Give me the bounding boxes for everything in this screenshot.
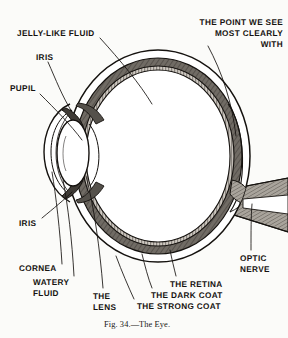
figure-page: JELLY-LIKE FLUID IRIS PUPIL IRIS CORNEA … [0, 0, 288, 338]
label-point-line3: WITH [183, 39, 283, 50]
label-watery-fluid-line2: FLUID [33, 288, 69, 299]
label-the-lens: THE LENS [93, 291, 116, 313]
label-pupil: PUPIL [10, 83, 36, 94]
label-optic-nerve-line2: NERVE [240, 264, 270, 275]
label-iris-bottom: IRIS [19, 218, 36, 229]
label-the-retina: THE RETINA [170, 279, 223, 290]
lens [57, 120, 89, 186]
label-jelly-like-fluid: JELLY-LIKE FLUID [17, 28, 95, 39]
label-the-dark-coat: THE DARK COAT [151, 290, 223, 301]
figure-caption: Fig. 34.—The Eye. [104, 320, 170, 329]
label-cornea: CORNEA [19, 263, 57, 274]
label-the-lens-line2: LENS [93, 302, 116, 313]
leader-strong-coat [116, 256, 134, 299]
jelly-like-fluid-chamber [86, 70, 230, 242]
label-watery-fluid-line1: WATERY [33, 277, 69, 288]
label-point-line1: THE POINT WE SEE [183, 17, 283, 28]
label-the-strong-coat: THE STRONG COAT [137, 301, 221, 312]
label-iris-top: IRIS [36, 52, 53, 63]
label-the-lens-line1: THE [93, 291, 116, 302]
label-optic-nerve: OPTIC NERVE [240, 253, 270, 275]
label-point-line2: MOST CLEARLY [183, 28, 283, 39]
label-optic-nerve-line1: OPTIC [240, 253, 270, 264]
label-point-we-see-most-clearly-with: THE POINT WE SEE MOST CLEARLY WITH [183, 17, 283, 50]
label-watery-fluid: WATERY FLUID [33, 277, 69, 299]
